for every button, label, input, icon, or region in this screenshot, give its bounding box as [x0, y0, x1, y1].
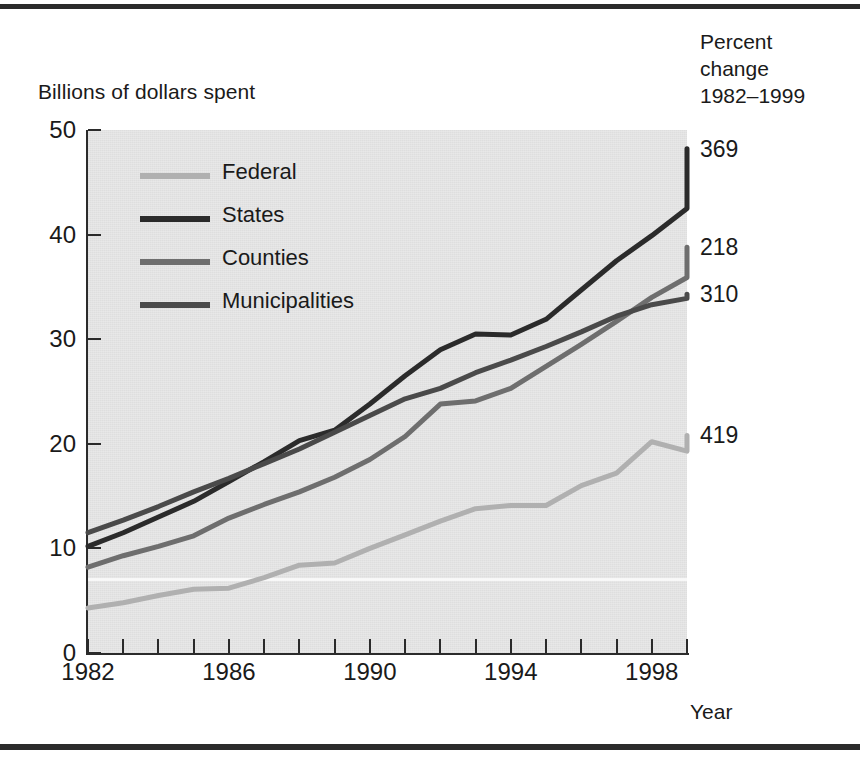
x-tick-1988 — [298, 639, 300, 653]
x-tick-label-1982: 1982 — [43, 659, 133, 685]
legend-swatch-federal — [140, 173, 210, 179]
percent-change-header-line-2: change — [700, 55, 805, 82]
chart-legend: FederalStatesCountiesMunicipalities — [140, 157, 460, 329]
percent-change-municipalities: 310 — [700, 283, 738, 306]
y-tick-20 — [88, 443, 101, 445]
x-tick-1985 — [193, 639, 195, 653]
x-tick-1995 — [545, 639, 547, 653]
x-tick-1986 — [228, 639, 230, 653]
y-tick-label-20: 20 — [28, 432, 76, 456]
x-tick-label-1990: 1990 — [325, 659, 415, 685]
bottom-rule — [0, 744, 860, 750]
y-tick-label-40: 40 — [28, 223, 76, 247]
y-tick-50 — [88, 129, 101, 131]
x-axis-title: Year — [690, 700, 732, 724]
y-tick-label-50: 50 — [28, 118, 76, 142]
percent-change-header-line-3: 1982–1999 — [700, 82, 805, 109]
percent-change-states: 369 — [700, 138, 738, 161]
legend-label-counties: Counties — [222, 245, 309, 271]
x-tick-1984 — [157, 639, 159, 653]
y-tick-30 — [88, 338, 101, 340]
x-axis-line — [86, 653, 689, 655]
percent-change-header: Percent change 1982–1999 — [700, 28, 805, 109]
legend-item-states: States — [140, 200, 460, 243]
legend-label-states: States — [222, 202, 284, 228]
x-tick-1998 — [651, 639, 653, 653]
percent-change-counties: 218 — [700, 236, 738, 259]
x-tick-1982 — [87, 639, 89, 653]
chart-figure: Billions of dollars spent Percent change… — [0, 0, 860, 763]
series-line-municipalities — [88, 294, 687, 532]
x-tick-1997 — [616, 639, 618, 653]
legend-label-municipalities: Municipalities — [222, 288, 354, 314]
x-tick-1992 — [439, 639, 441, 653]
legend-swatch-counties — [140, 259, 210, 265]
top-rule — [0, 4, 860, 9]
x-tick-1987 — [263, 639, 265, 653]
x-tick-1996 — [580, 639, 582, 653]
legend-swatch-states — [140, 216, 210, 222]
x-tick-label-1998: 1998 — [607, 659, 697, 685]
x-tick-1990 — [369, 639, 371, 653]
series-line-federal — [88, 435, 687, 608]
x-tick-label-1994: 1994 — [466, 659, 556, 685]
y-tick-40 — [88, 234, 101, 236]
percent-change-header-line-1: Percent — [700, 28, 805, 55]
x-tick-label-1986: 1986 — [184, 659, 274, 685]
legend-item-municipalities: Municipalities — [140, 286, 460, 329]
y-tick-10 — [88, 547, 101, 549]
legend-label-federal: Federal — [222, 159, 297, 185]
legend-item-federal: Federal — [140, 157, 460, 200]
x-tick-1994 — [510, 639, 512, 653]
x-tick-1983 — [122, 639, 124, 653]
x-tick-1991 — [404, 639, 406, 653]
legend-swatch-municipalities — [140, 302, 210, 308]
y-axis-title: Billions of dollars spent — [38, 80, 255, 104]
percent-change-federal: 419 — [700, 424, 738, 447]
x-tick-1993 — [475, 639, 477, 653]
y-tick-0 — [88, 652, 101, 654]
x-tick-1999 — [686, 639, 688, 653]
x-tick-1989 — [334, 639, 336, 653]
legend-item-counties: Counties — [140, 243, 460, 286]
y-tick-label-10: 10 — [28, 536, 76, 560]
y-tick-label-30: 30 — [28, 327, 76, 351]
